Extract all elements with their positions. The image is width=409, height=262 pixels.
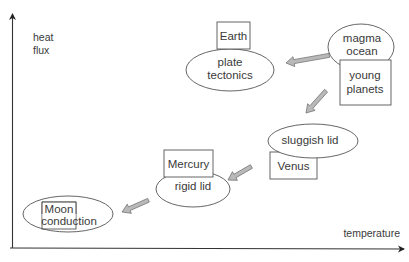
plate-tectonics-label-line1: plate — [218, 56, 243, 68]
mercury-node: Mercury rigid lid — [156, 150, 230, 207]
magma-ocean-label-line2: ocean — [346, 45, 377, 57]
arrow-young-to-venus — [302, 87, 330, 116]
moon-node: Moon conduction — [23, 196, 113, 232]
plate-tectonics-label-line2: tectonics — [207, 69, 253, 81]
earth-label: Earth — [220, 30, 248, 42]
young-planets-label-line2: planets — [346, 83, 383, 95]
earth-node: Earth plate tectonics — [186, 22, 274, 91]
x-axis-label: temperature — [343, 227, 400, 239]
conduction-label: conduction — [41, 215, 97, 227]
y-axis-label-line1: heat — [33, 31, 54, 43]
young-planets-label-line1: young — [349, 69, 380, 81]
heat-flux-vs-temperature-diagram: heat flux temperature Earth plate tecton… — [0, 0, 409, 262]
arrow-venus-to-mercury — [226, 162, 254, 184]
venus-node: sluggish lid Venus — [268, 124, 358, 179]
young-planets-node: magma ocean young planets — [328, 24, 394, 105]
mercury-label: Mercury — [168, 158, 210, 170]
rigid-lid-label: rigid lid — [175, 180, 211, 192]
magma-ocean-label-line1: magma — [343, 32, 382, 44]
y-axis-label-line2: flux — [33, 44, 50, 56]
arrow-young-to-earth — [285, 50, 330, 67]
sluggish-lid-label: sluggish lid — [282, 134, 339, 146]
arrow-mercury-to-moon — [120, 196, 151, 217]
venus-label: Venus — [278, 160, 310, 172]
moon-label: Moon — [45, 203, 74, 215]
x-axis — [10, 248, 404, 249]
